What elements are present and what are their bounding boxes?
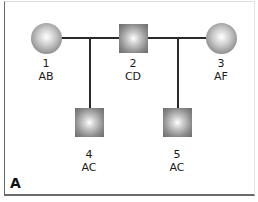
- individual-3-female-symbol: [206, 23, 237, 54]
- individual-1-genotype: AB: [26, 70, 66, 83]
- descent-line-4: [89, 37, 91, 108]
- panel-label: A: [10, 175, 21, 191]
- individual-3-genotype: AF: [201, 70, 241, 83]
- individual-3-id: 3: [201, 57, 241, 70]
- individual-4-male-symbol: [75, 108, 104, 137]
- individual-2-male-symbol: [119, 24, 148, 53]
- individual-1-id: 1: [26, 57, 66, 70]
- individual-2-genotype: CD: [113, 70, 153, 83]
- individual-5-male-symbol: [163, 108, 192, 137]
- individual-2-id: 2: [113, 57, 153, 70]
- individual-1-female-symbol: [31, 23, 62, 54]
- individual-5-genotype: AC: [157, 161, 197, 174]
- individual-5-id: 5: [157, 148, 197, 161]
- individual-4-genotype: AC: [69, 161, 109, 174]
- descent-line-5: [177, 37, 179, 108]
- individual-4-id: 4: [69, 148, 109, 161]
